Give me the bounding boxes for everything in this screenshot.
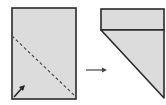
paper-sheet (12, 8, 76, 99)
arrow-right-icon (86, 68, 107, 73)
folded-band (101, 9, 164, 30)
folded-result (101, 9, 164, 98)
folding-diagram (0, 0, 166, 105)
unfolded-sheet (12, 8, 76, 99)
folded-triangle (101, 30, 164, 98)
